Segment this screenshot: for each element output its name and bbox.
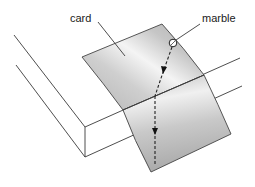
- marble-label-group: marble: [176, 12, 236, 40]
- card-marble-diagram: card marble: [0, 0, 255, 187]
- marble-leader-line: [176, 24, 200, 40]
- table-bottom-back-edge: [16, 65, 85, 157]
- table-top-back-edge: [14, 35, 85, 127]
- card-label: card: [70, 12, 91, 24]
- marble-label: marble: [202, 12, 236, 24]
- card: [82, 24, 231, 172]
